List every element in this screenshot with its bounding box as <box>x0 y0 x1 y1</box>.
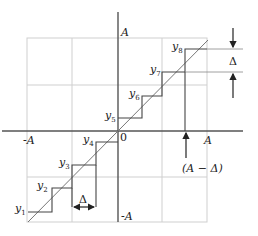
level-label-y4: y4 <box>82 133 94 148</box>
x-axis-min-label: -A <box>23 134 35 147</box>
y-axis-max-label: A <box>120 26 129 39</box>
level-label-y8: y8 <box>171 40 183 55</box>
grid <box>27 38 207 222</box>
quantizer-diagram: A -A -A A 0 y1 y2 y3 y4 y5 y6 y7 y8 Δ Δ … <box>0 0 258 236</box>
step-width-label: Δ <box>79 193 87 206</box>
level-label-y1: y1 <box>14 202 26 217</box>
level-label-y3: y3 <box>58 156 70 171</box>
level-label-y2: y2 <box>36 179 48 194</box>
y-axis-min-label: -A <box>121 210 133 223</box>
threshold-label: (A − Δ) <box>182 162 223 175</box>
level-label-y5: y5 <box>104 109 116 124</box>
x-axis-max-label: A <box>203 134 212 147</box>
origin-label: 0 <box>120 131 127 144</box>
step-height-label: Δ <box>229 55 237 68</box>
level-label-y6: y6 <box>128 87 140 102</box>
level-label-y7: y7 <box>149 63 161 78</box>
